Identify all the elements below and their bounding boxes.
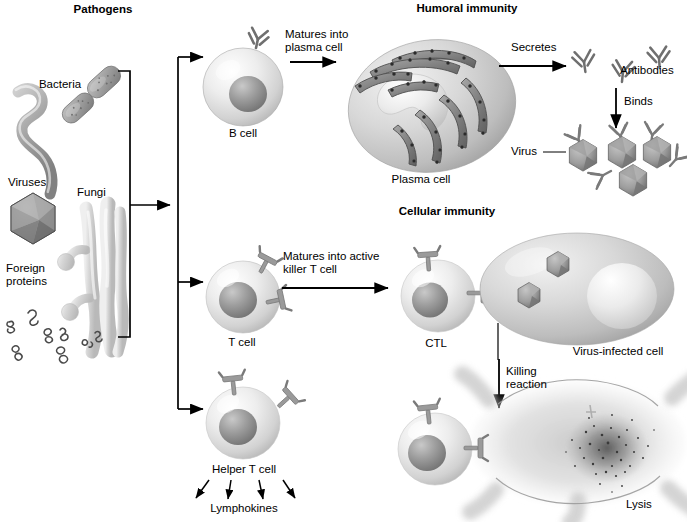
- ctl-label: CTL: [425, 337, 447, 350]
- virus-particle: [569, 137, 670, 197]
- secretes-label: Secretes: [511, 41, 556, 54]
- t-cell-label: T cell: [228, 336, 255, 349]
- virus-label: Virus: [511, 145, 537, 158]
- bacteria-icon: [59, 62, 125, 127]
- killing-reaction-label-line1: Killing: [506, 365, 537, 378]
- plasma-cell: [340, 29, 525, 183]
- fungi-label: Fungi: [77, 186, 106, 199]
- humoral-immunity-heading: Humoral immunity: [417, 2, 518, 15]
- t-cell: [206, 246, 291, 333]
- immune-response-diagram: Pathogens Humoral immunity Cellular immu…: [0, 0, 687, 522]
- b-cell-antibody-receptor: [246, 27, 270, 50]
- binds-label: Binds: [624, 95, 653, 108]
- foreign-proteins-label-line1: Foreign: [6, 262, 45, 275]
- cellular-immunity-heading: Cellular immunity: [399, 205, 496, 218]
- helper-t-cell-label: Helper T cell: [212, 463, 276, 476]
- lysis-label: Lysis: [626, 498, 652, 511]
- viruses-label: Viruses: [8, 176, 46, 189]
- killing-reaction-label-line2: reaction: [506, 378, 547, 391]
- b-cell-label: B cell: [229, 127, 257, 140]
- matures-plasma-label-line2: plasma cell: [285, 41, 343, 54]
- distribution-line: [178, 57, 203, 409]
- antibodies-label: Antibodies: [620, 64, 674, 77]
- matures-plasma-label-line1: Matures into: [285, 28, 348, 41]
- bacteria-label: Bacteria: [39, 78, 81, 91]
- virus-infected-cell-label: Virus-infected cell: [573, 345, 664, 358]
- lysed-cell: [462, 374, 687, 522]
- matures-ctl-label-line1: Matures into active: [283, 250, 380, 263]
- helper-t-cell: [206, 370, 305, 459]
- fungi-icon: [58, 204, 124, 352]
- foreign-proteins-label-line2: proteins: [6, 275, 47, 288]
- pathogens-heading: Pathogens: [74, 3, 133, 16]
- matures-ctl-label-line2: killer T cell: [283, 263, 337, 276]
- lymphokines-label: Lymphokines: [210, 502, 277, 515]
- b-cell: [203, 27, 283, 126]
- ctl-cell: [401, 246, 491, 332]
- lymphokine-arrows: [196, 480, 295, 499]
- virus-icosahedron-icon: [11, 193, 55, 244]
- virus-infected-cell: [480, 233, 674, 360]
- plasma-cell-label: Plasma cell: [392, 173, 451, 186]
- virus-antibody-complex: [543, 122, 687, 196]
